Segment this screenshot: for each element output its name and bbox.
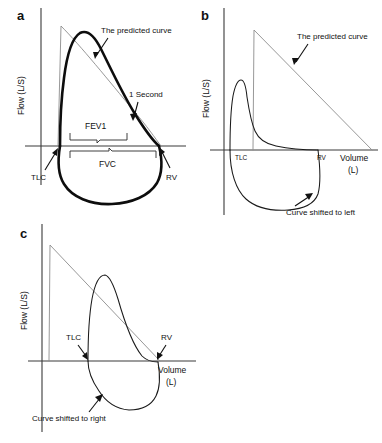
panel-b-predicted-curve-label: The predicted curve (297, 32, 368, 41)
panel-a-one-second-label: 1 Second (129, 90, 163, 99)
panel-b-letter: b (201, 8, 209, 23)
panel-c-tlc-label: TLC (66, 333, 81, 342)
panel-c-x-axis-label-line2: (L) (166, 377, 177, 387)
panel-a: a Flow (L/S) The predicted curve 1 Secon… (16, 8, 186, 204)
panel-c-rv-label: RV (161, 333, 173, 342)
panel-a-fev1-label: FEV1 (85, 121, 107, 131)
panel-a-tlc-leader (45, 152, 56, 170)
panel-a-letter: a (17, 8, 25, 23)
panel-a-fev1-bracket (70, 133, 127, 143)
panel-b-predicted-curve-arrowhead (292, 58, 299, 65)
panel-c: c Flow (L/S) Volume (L) TLC RV Curve shi… (19, 224, 196, 432)
panel-a-predicted-curve-label: The predicted curve (101, 26, 172, 35)
panel-a-fvc-bracket (70, 148, 156, 158)
panel-a-predicted-curve-arrowhead (93, 52, 99, 59)
panel-b-x-axis-label-line1: Volume (340, 153, 369, 163)
panel-a-rv-label: RV (166, 173, 178, 182)
panel-b-y-axis-label: Flow (L/S) (201, 79, 211, 118)
panel-a-fvc-label: FVC (99, 159, 116, 169)
panel-c-measured-expiratory (88, 275, 158, 362)
panel-c-predicted-curve (49, 245, 160, 361)
panel-c-y-axis-label: Flow (L/S) (19, 291, 29, 330)
panel-c-measured-inspiratory (88, 361, 159, 410)
panel-b-x-axis-label-line2: (L) (348, 165, 359, 175)
panel-a-y-axis-label: Flow (L/S) (16, 76, 26, 115)
figure-root: a Flow (L/S) The predicted curve 1 Secon… (0, 0, 382, 443)
panel-a-measured-expiratory (60, 32, 159, 146)
panel-c-x-axis-label-line1: Volume (158, 365, 187, 375)
panel-c-shift-label: Curve shifted to right (32, 414, 107, 423)
panel-b-predicted-curve (253, 30, 372, 150)
panel-b-measured-expiratory (230, 80, 318, 150)
flow-volume-loop-figure: a Flow (L/S) The predicted curve 1 Secon… (0, 0, 382, 443)
panel-a-tlc-arrowhead (52, 148, 58, 156)
panel-a-measured-inspiratory (59, 146, 162, 204)
panel-c-shift-arrowhead (95, 394, 103, 402)
panel-b-rv-label: RV (317, 154, 327, 161)
panel-c-rv-arrowhead (157, 352, 163, 360)
panel-c-tlc-arrowhead (82, 352, 88, 360)
panel-a-rv-leader (162, 152, 170, 168)
panel-b-tlc-label: TLC (235, 154, 248, 161)
panel-a-tlc-label: TLC (31, 173, 46, 182)
panel-c-letter: c (20, 226, 27, 241)
panel-b-shift-label: Curve shifted to left (286, 208, 356, 217)
panel-b: b Flow (L/S) Volume (L) The predicted cu… (201, 8, 378, 217)
